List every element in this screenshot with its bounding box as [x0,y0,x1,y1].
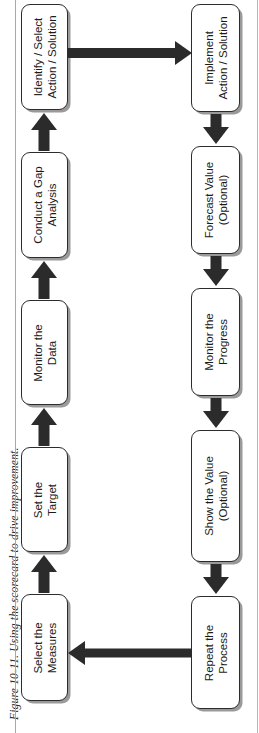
node-set-target-label: Set the Target [31,481,58,517]
node-forecast-value[interactable]: Forecast Value (Optional) [191,146,240,254]
arrow-identify-to-implement [68,41,192,65]
node-conduct-gap-label: Conduct a Gap Analysis [31,166,58,243]
process-flow-diagram: Identify / Select Action / Solution Cond… [0,0,259,733]
node-monitor-progress-label: Monitor the Progress [202,313,229,371]
node-identify-select-label: Identify / Select Action / Solution [31,15,58,98]
arrow-conduct-gap-to-identify [27,113,61,151]
node-repeat-process[interactable]: Repeat the Process [191,596,240,709]
arrow-monitor-progress-to-show-value [199,398,233,428]
node-repeat-process-label: Repeat the Process [202,624,229,680]
node-select-measures[interactable]: Select the Measures [21,594,68,701]
node-set-target[interactable]: Set the Target [21,447,68,552]
node-monitor-data[interactable]: Monitor the Data [21,300,68,405]
node-show-value[interactable]: Show the Value (Optional) [191,430,240,562]
node-forecast-value-label: Forecast Value (Optional) [202,162,229,239]
node-identify-select[interactable]: Identify / Select Action / Solution [21,4,68,110]
node-implement-action[interactable]: Implement Action / Solution [191,4,240,112]
arrow-monitor-data-to-conduct-gap [27,261,61,299]
arrow-repeat-to-select-measures [68,641,192,665]
arrow-set-target-to-monitor-data [27,408,61,446]
arrow-forecast-to-monitor-progress [199,256,233,286]
node-monitor-data-label: Monitor the Data [31,324,58,382]
node-monitor-progress[interactable]: Monitor the Progress [191,288,240,396]
arrow-show-value-to-repeat [199,564,233,594]
arrow-select-measures-to-set-target [27,555,61,593]
node-select-measures-label: Select the Measures [31,622,58,673]
node-conduct-gap[interactable]: Conduct a Gap Analysis [21,152,68,258]
node-show-value-label: Show the Value (Optional) [202,456,229,536]
node-implement-action-label: Implement Action / Solution [202,16,229,99]
arrow-implement-to-forecast [199,114,233,144]
